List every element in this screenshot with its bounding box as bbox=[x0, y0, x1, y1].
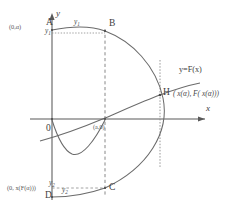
point-label-H: H bbox=[163, 88, 170, 98]
point-marker-B bbox=[104, 30, 106, 32]
point-marker-a0 bbox=[104, 118, 106, 120]
x-axis bbox=[30, 116, 205, 121]
point-marker-C bbox=[104, 187, 106, 189]
y2-axis-tick-label: y2 bbox=[49, 180, 55, 189]
x-axis-label: x bbox=[206, 104, 210, 113]
point-label-D: D bbox=[45, 191, 52, 201]
origin-label: 0 bbox=[46, 124, 51, 134]
point-marker-origin bbox=[51, 118, 53, 120]
h-coordinate-expression: ( x(α), F( x(α))) bbox=[173, 90, 219, 97]
bottom-coordinate-label: (0, x(F(α))) bbox=[7, 185, 36, 191]
upper-arc-curve bbox=[52, 27, 164, 188]
point-label-B: B bbox=[109, 19, 115, 29]
y-axis bbox=[49, 13, 54, 200]
y1-axis-tick-label: y1 bbox=[45, 28, 51, 37]
point-marker-H bbox=[159, 94, 162, 97]
a-zero-label: (a,0) bbox=[93, 124, 105, 130]
y-axis-label: y bbox=[56, 9, 60, 18]
y2-curve-label: y2 bbox=[62, 187, 68, 196]
point-marker-A bbox=[51, 29, 53, 31]
point-label-C: C bbox=[109, 183, 115, 193]
lower-arc-curve bbox=[52, 188, 105, 197]
y1-curve-label: y1 bbox=[74, 19, 80, 28]
math-figure: y x 0 (0,α) A y1 y1 B (a,0) (0, x(F(α)))… bbox=[0, 0, 236, 220]
alpha-coordinate-label: (0,α) bbox=[9, 24, 21, 30]
function-curve-label: y=F(x) bbox=[179, 66, 202, 74]
